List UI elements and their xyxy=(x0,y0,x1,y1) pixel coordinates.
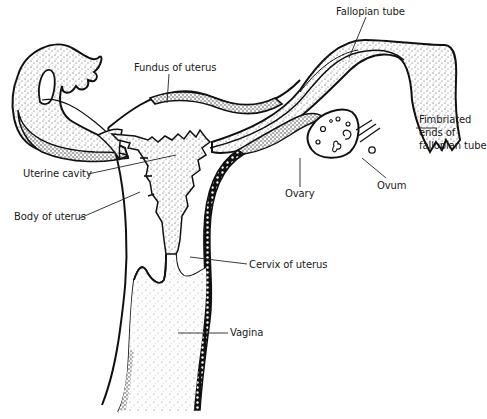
label-ovum: Ovum xyxy=(377,179,406,192)
label-cervix-of-uterus: Cervix of uterus xyxy=(249,258,327,271)
label-fimbriated-ends-line1: Fimbriated xyxy=(419,113,471,126)
reproductive-anatomy-diagram: Fallopian tube Fundus of uterus Fimbriat… xyxy=(0,0,487,419)
label-body-of-uterus: Body of uterus xyxy=(14,210,86,223)
leader-ovum xyxy=(362,158,386,178)
leader-body-of-uterus xyxy=(80,192,140,218)
ovum-shape xyxy=(369,147,375,153)
label-fallopian-tube: Fallopian tube xyxy=(336,5,405,18)
label-ovary: Ovary xyxy=(285,187,314,200)
label-uterine-cavity: Uterine cavity xyxy=(23,167,92,180)
label-fundus-of-uterus: Fundus of uterus xyxy=(134,61,216,74)
leader-cervix xyxy=(190,257,247,264)
label-fimbriated-ends-line2: ends of xyxy=(419,126,455,139)
label-fimbriated-ends-line3: fallopian tube xyxy=(419,139,486,152)
label-vagina: Vagina xyxy=(230,326,263,339)
